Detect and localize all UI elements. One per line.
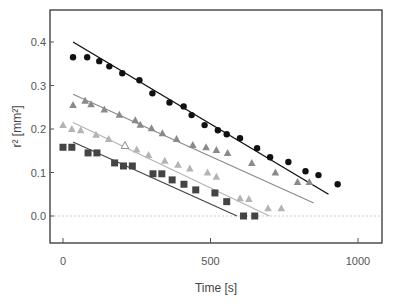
data-point-square: [180, 181, 187, 188]
y-tick-label: 0.2: [31, 123, 46, 135]
data-point-triangle: [148, 124, 156, 131]
data-point-square: [111, 159, 118, 166]
data-point-triangle: [69, 101, 77, 108]
data-point-circle: [70, 54, 76, 60]
series-triangle-1: [69, 94, 314, 203]
data-point-square: [129, 162, 136, 169]
data-point-triangle: [204, 169, 212, 176]
series-triangle-2: [59, 121, 285, 216]
data-point-triangle: [145, 151, 153, 158]
data-point-circle: [119, 70, 125, 76]
x-tick-label: 1000: [346, 255, 370, 267]
data-point-triangle: [248, 159, 256, 166]
y-axis-label: r² [mm²]: [10, 106, 24, 148]
x-axis-label: Time [s]: [195, 281, 237, 295]
data-point-circle: [302, 168, 308, 174]
data-point-square: [158, 170, 165, 177]
data-point-circle: [224, 131, 230, 137]
data-point-circle: [285, 159, 291, 165]
data-point-circle: [237, 135, 243, 141]
data-point-circle: [84, 54, 90, 60]
data-point-circle: [215, 127, 221, 133]
data-point-square: [192, 186, 199, 193]
data-point-square: [60, 144, 67, 151]
data-point-triangle: [236, 194, 244, 201]
chart-container: 0.00.10.20.30.405001000Time [s]r² [mm²]: [0, 0, 394, 304]
data-point-triangle: [213, 146, 221, 153]
x-tick-label: 0: [60, 255, 66, 267]
data-point-circle: [136, 77, 142, 83]
data-point-circle: [315, 172, 321, 178]
data-point-triangle: [173, 135, 181, 142]
data-point-triangle: [294, 178, 302, 185]
data-point-triangle: [131, 116, 139, 123]
data-point-square: [85, 149, 92, 156]
data-point-square: [240, 213, 247, 220]
y-tick-label: 0.3: [31, 80, 46, 92]
data-point-triangle: [264, 204, 272, 211]
data-point-square: [68, 144, 75, 151]
data-point-triangle: [272, 169, 280, 176]
data-point-square: [211, 189, 218, 196]
y-tick-label: 0.4: [31, 36, 46, 48]
data-point-square: [120, 162, 127, 169]
data-point-square: [93, 149, 100, 156]
x-tick-label: 500: [201, 255, 219, 267]
data-point-circle: [188, 112, 194, 118]
data-point-circle: [334, 181, 340, 187]
y-tick-label: 0.0: [31, 210, 46, 222]
data-point-square: [149, 170, 156, 177]
data-point-square: [251, 213, 258, 220]
data-point-circle: [180, 103, 186, 109]
scatter-plot: 0.00.10.20.30.405001000Time [s]r² [mm²]: [0, 0, 394, 304]
data-point-triangle: [161, 157, 169, 164]
data-point-square: [223, 198, 230, 205]
data-point-triangle: [213, 173, 221, 180]
data-point-circle: [166, 99, 172, 105]
data-point-triangle: [189, 141, 197, 148]
series-circle-0: [70, 42, 341, 194]
data-point-triangle: [68, 125, 76, 132]
data-point-triangle: [224, 149, 232, 156]
data-point-square: [169, 176, 176, 183]
data-point-circle: [106, 63, 112, 69]
data-point-triangle: [202, 143, 210, 150]
data-point-triangle: [59, 121, 67, 128]
data-point-triangle: [245, 195, 253, 202]
data-point-triangle: [278, 204, 286, 211]
data-point-triangle: [174, 161, 182, 168]
data-point-circle: [96, 58, 102, 64]
data-point-open-triangle: [121, 142, 129, 149]
data-point-circle: [149, 90, 155, 96]
y-tick-label: 0.1: [31, 167, 46, 179]
data-point-circle: [201, 122, 207, 128]
data-point-triangle: [133, 145, 141, 152]
data-point-circle: [267, 154, 273, 160]
data-point-circle: [254, 145, 260, 151]
data-point-triangle: [186, 165, 194, 172]
